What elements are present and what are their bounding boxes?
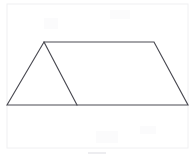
trapezoid-interior-fill [7,42,188,105]
figure-canvas [0,0,193,159]
scan-blotch [140,126,156,134]
bottom-smudge-artifact [88,152,106,154]
geometry-figure-svg [0,0,193,159]
scan-blotch [44,18,58,29]
scan-blotch [96,131,118,143]
scan-blotch [110,10,130,19]
